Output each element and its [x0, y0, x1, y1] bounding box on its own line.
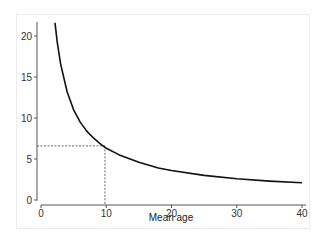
- reference-lines: [37, 146, 105, 205]
- x-axis-title: Mean age: [149, 212, 194, 223]
- y-tick-label: 0: [26, 195, 32, 206]
- x-tick-label: 40: [296, 208, 308, 219]
- x-tick-label: 0: [38, 208, 44, 219]
- axes: 05101520010203040: [21, 22, 308, 219]
- y-tick-label: 5: [26, 154, 32, 165]
- x-tick-label: 30: [231, 208, 243, 219]
- y-tick-label: 20: [21, 31, 33, 42]
- curve-line: [55, 23, 302, 183]
- x-tick-label: 10: [101, 208, 113, 219]
- y-tick-label: 15: [21, 72, 33, 83]
- y-tick-label: 10: [21, 113, 33, 124]
- chart-plot: 05101520010203040 Mean age: [0, 0, 324, 242]
- data-series: [55, 23, 302, 183]
